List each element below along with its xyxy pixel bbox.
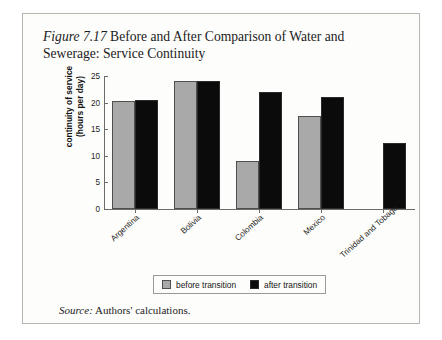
y-axis-tick-label: 25 [81,72,100,81]
source-text: Authors' calculations. [93,304,191,316]
y-axis-tick-mark [104,156,108,157]
source-note: Source: Authors' calculations. [59,304,190,316]
y-axis-tick-label: 20 [81,98,100,107]
x-axis-label-trinidad-and-tobago: Trinidad and Tobago [338,213,389,260]
bar-after-bolivia [197,81,220,209]
y-axis-tick-mark [104,129,108,130]
x-axis-label-argentina: Argentina [90,213,141,260]
legend-entry-after: after transition [250,280,317,290]
bar-after-colombia [259,92,282,209]
y-axis-tick-mark [104,182,108,183]
chart-legend: before transition after transition [153,275,326,294]
bar-after-argentina [135,100,158,209]
source-label: Source: [59,304,93,316]
y-axis-tick-label: 15 [81,125,100,134]
x-axis-label-mexico: Mexico [276,213,327,260]
bar-after-mexico [321,97,344,209]
y-axis-tick-mark [104,209,108,210]
legend-label-before: before transition [176,280,236,290]
x-axis-label-colombia: Colombia [214,213,265,260]
y-axis-title-line1: continuity of service [64,42,75,172]
bar-before-bolivia [174,81,197,209]
figure-frame: Figure 7.17 Before and After Comparison … [22,13,420,324]
y-axis-tick-label: 0 [81,205,100,214]
legend-entry-before: before transition [162,280,236,290]
bar-before-argentina [112,101,135,209]
x-axis-label-bolivia: Bolivia [152,213,203,260]
legend-label-after: after transition [264,280,317,290]
y-axis-tick-label: 5 [81,178,100,187]
y-axis-tick-label: 10 [81,151,100,160]
y-axis-tick-mark [104,76,108,77]
y-axis-tick-mark [104,103,108,104]
bar-before-mexico [298,116,321,209]
bar-after-trinidad-and-tobago [383,143,406,210]
legend-swatch-before-icon [162,280,171,289]
figure-title: Figure 7.17 Before and After Comparison … [43,28,395,62]
plot-area [104,76,414,209]
legend-swatch-after-icon [250,280,259,289]
y-axis-tick-labels: 0510152025 [81,76,100,209]
bar-before-colombia [236,161,259,209]
